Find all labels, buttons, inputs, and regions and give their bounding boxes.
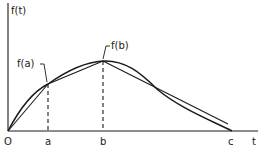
chord-segment-a-b [48, 61, 103, 84]
y-axis-label: f(t) [11, 5, 26, 16]
x-axis-label: t [252, 136, 256, 147]
tick-label-b: b [100, 136, 106, 147]
leader-fb [103, 46, 110, 59]
chord-segment-o-a [8, 84, 48, 131]
leader-fa [40, 64, 47, 82]
point-label-fb: f(b) [111, 40, 129, 51]
chord-segment-b-forward [103, 61, 228, 124]
tick-label-c: c [228, 136, 234, 147]
function-curve [8, 61, 232, 131]
tick-label-a: a [45, 136, 51, 147]
origin-label: O [4, 136, 12, 147]
point-label-fa: f(a) [17, 58, 35, 69]
function-diagram: f(t) t O a b c f(a) f(b) [0, 0, 265, 161]
